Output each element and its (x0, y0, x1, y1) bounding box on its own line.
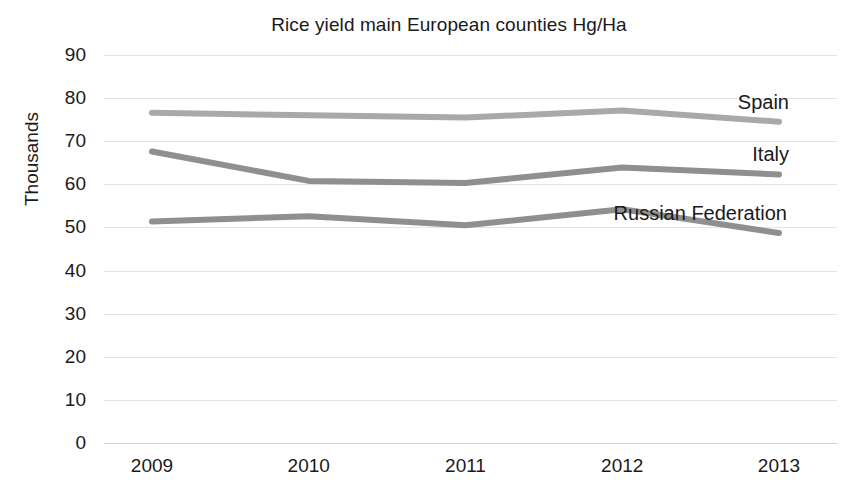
x-tick-label: 2010 (288, 455, 330, 477)
x-tick-label: 2009 (131, 455, 173, 477)
x-tick-label: 2011 (445, 455, 486, 477)
y-tick-label: 20 (24, 346, 86, 368)
x-tick-label: 2012 (601, 455, 643, 477)
y-tick-label: 50 (24, 216, 86, 238)
series-label-italy: Italy (752, 143, 789, 166)
y-axis-tick-labels: 9080706050403020100 (24, 55, 86, 443)
series-line (152, 111, 779, 122)
x-tick-label: 2013 (758, 455, 800, 477)
gridline-0 (104, 443, 837, 444)
line-chart: Rice yield main European counties Hg/Ha … (0, 0, 858, 503)
y-tick-label: 40 (24, 260, 86, 282)
chart-title: Rice yield main European counties Hg/Ha (0, 14, 858, 36)
y-tick-label: 0 (24, 432, 86, 454)
series-lines (104, 55, 837, 443)
plot-area: SpainItalyRussian Federation (104, 55, 837, 443)
series-line (152, 152, 779, 183)
y-tick-label: 60 (24, 173, 86, 195)
y-tick-label: 90 (24, 44, 86, 66)
y-tick-label: 80 (24, 87, 86, 109)
y-tick-label: 10 (24, 389, 86, 411)
series-label-russian-federation: Russian Federation (614, 202, 787, 225)
y-tick-label: 30 (24, 303, 86, 325)
x-axis-tick-labels: 20092010201120122013 (104, 455, 837, 485)
series-label-spain: Spain (738, 91, 789, 114)
y-tick-label: 70 (24, 130, 86, 152)
